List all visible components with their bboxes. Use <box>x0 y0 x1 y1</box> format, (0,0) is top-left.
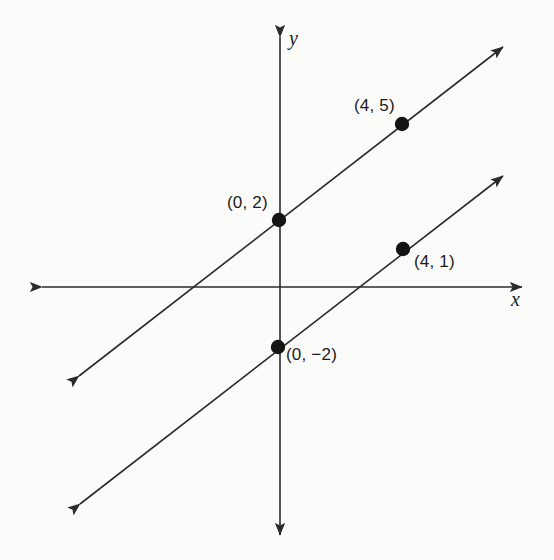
point-label-0-minus-2: (0, −2) <box>286 345 337 365</box>
y-axis-label: y <box>289 27 298 50</box>
point-label-0-2: (0, 2) <box>227 193 268 213</box>
point-label-4-1: (4, 1) <box>414 252 455 272</box>
point-4-5 <box>395 117 409 131</box>
x-axis-label: x <box>511 288 520 311</box>
line-2 <box>80 176 503 504</box>
coordinate-plane-svg <box>0 0 554 560</box>
point-0-minus-2 <box>271 340 285 354</box>
graph-figure: (0, 2) (4, 5) (4, 1) (0, −2) x y <box>0 0 554 560</box>
point-4-1 <box>396 242 410 256</box>
point-0-2 <box>272 213 286 227</box>
point-label-4-5: (4, 5) <box>354 96 395 116</box>
line-1 <box>79 47 503 376</box>
